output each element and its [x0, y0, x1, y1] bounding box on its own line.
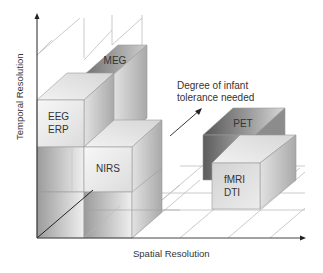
y-axis-label: Temporal Resolution [14, 53, 25, 140]
x-axis-label: Spatial Resolution [133, 248, 210, 259]
meg-label: MEG [104, 55, 127, 66]
dti-label: DTI [224, 187, 240, 198]
erp-label: ERP [48, 124, 69, 135]
nirs-label: NIRS [96, 163, 120, 174]
tolerance-label-line2: tolerance needed [177, 92, 254, 103]
y-axis-arrow-icon [35, 13, 40, 19]
x-axis-arrow-icon [300, 236, 306, 241]
eeg-lower-stack [37, 147, 84, 238]
fmri-label: fMRI [224, 174, 245, 185]
tolerance-label-line1: Degree of infant [177, 80, 248, 91]
pet-label: PET [233, 118, 252, 129]
eeg-label: EEG [48, 111, 69, 122]
modality-resolution-diagram: MEG EEG ERP NIRS PET fMRI [0, 0, 323, 273]
